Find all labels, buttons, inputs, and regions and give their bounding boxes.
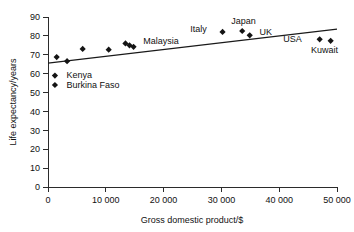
x-tick-label: 30 000 (208, 195, 236, 205)
point-burkina-faso-marker (52, 82, 58, 88)
x-tick-label: 20 000 (150, 195, 178, 205)
x-tick-label: 50 000 (323, 195, 351, 205)
annotation-uk: UK (260, 27, 273, 37)
y-tick-label: 20 (30, 144, 40, 154)
point-usa-marker (317, 36, 323, 42)
point-4-marker (106, 47, 112, 53)
annotation-italy: Italy (190, 24, 207, 34)
annotation-kuwait: Kuwait (311, 45, 339, 55)
y-axis-ticks: 0102030405060708090 (30, 12, 48, 192)
x-tick-label: 40 000 (265, 195, 293, 205)
x-tick-label: 0 (45, 195, 50, 205)
scatter-chart-figure: 0102030405060708090 010 00020 00030 0004… (0, 0, 354, 232)
annotation-malaysia: Malaysia (143, 36, 179, 46)
point-1-marker (54, 54, 60, 60)
y-axis-title: Life expectancy/years (8, 58, 18, 146)
y-tick-label: 10 (30, 163, 40, 173)
y-tick-label: 0 (35, 182, 40, 192)
annotation-burkina-faso: Burkina Faso (66, 80, 119, 90)
y-tick-label: 30 (30, 126, 40, 136)
chart-canvas: 0102030405060708090 010 00020 00030 0004… (0, 0, 354, 232)
y-tick-label: 60 (30, 69, 40, 79)
y-tick-label: 40 (30, 107, 40, 117)
annotation-usa: USA (283, 34, 302, 44)
point-kuwait-marker (328, 38, 334, 44)
x-axis-ticks: 010 00020 00030 00040 00050 000 (45, 187, 350, 205)
y-tick-label: 70 (30, 50, 40, 60)
point-annotations-group: MalaysiaItalyJapanUKUSAKuwaitKenyaBurkin… (66, 16, 338, 90)
point-uk-marker (247, 32, 253, 38)
point-japan-marker (239, 28, 245, 34)
point-kenya-marker (52, 72, 58, 78)
point-2-marker (64, 58, 70, 64)
y-tick-label: 90 (30, 12, 40, 22)
point-3-marker (80, 46, 86, 52)
y-tick-label: 50 (30, 88, 40, 98)
x-axis-title: Gross domestic product/$ (141, 215, 244, 225)
point-italy-marker (219, 29, 225, 35)
x-tick-label: 10 000 (92, 195, 120, 205)
annotation-japan: Japan (231, 16, 256, 26)
y-tick-label: 80 (30, 31, 40, 41)
